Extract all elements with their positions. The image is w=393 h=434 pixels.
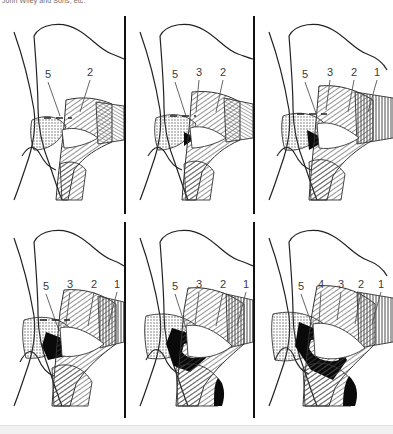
label-2: 2 bbox=[91, 278, 97, 290]
label-2: 2 bbox=[87, 66, 93, 78]
label-5: 5 bbox=[172, 280, 178, 292]
leader-5 bbox=[175, 82, 186, 116]
credit-text: John Wiley and Sons, etc. bbox=[2, 0, 182, 4]
label-1: 1 bbox=[243, 278, 249, 290]
leader-5 bbox=[48, 82, 60, 116]
cranial-outline bbox=[289, 230, 387, 276]
soft-tissue-wedge bbox=[31, 117, 66, 150]
left-structure-outer bbox=[14, 32, 35, 200]
label-3: 3 bbox=[196, 66, 202, 78]
cranial-outline bbox=[289, 24, 387, 70]
label-5: 5 bbox=[45, 68, 51, 80]
panel-6: 5 4 3 2 1 bbox=[255, 220, 393, 420]
alveolar-crest bbox=[148, 147, 182, 170]
label-2: 2 bbox=[351, 66, 357, 78]
cranial-outline bbox=[160, 24, 253, 59]
muscle-belly-lateral bbox=[226, 294, 253, 348]
label-2: 2 bbox=[220, 278, 226, 290]
divider-vertical-right bbox=[253, 16, 255, 214]
label-3: 3 bbox=[196, 278, 202, 290]
divider-vertical-left-lower bbox=[124, 222, 126, 418]
anatomical-figure-root: John Wiley and Sons, etc. bbox=[0, 0, 393, 434]
muscle-belly-lateral bbox=[96, 102, 124, 144]
panel-2: 5 3 2 bbox=[126, 14, 253, 214]
label-3: 3 bbox=[67, 278, 73, 290]
alveolar-crest bbox=[22, 147, 56, 170]
panel-4: 5 3 2 1 bbox=[0, 220, 124, 420]
label-3: 3 bbox=[327, 66, 333, 78]
label-5: 5 bbox=[172, 68, 178, 80]
label-5: 5 bbox=[298, 280, 304, 292]
label-1: 1 bbox=[374, 66, 380, 78]
label-5: 5 bbox=[302, 68, 308, 80]
label-2: 2 bbox=[358, 278, 364, 290]
bottom-band bbox=[0, 425, 393, 434]
panel-grid: 5 2 5 bbox=[0, 14, 393, 422]
label-4: 4 bbox=[318, 278, 324, 290]
divider-vertical-left bbox=[124, 16, 126, 214]
label-5: 5 bbox=[43, 280, 49, 292]
cranial-outline bbox=[160, 230, 253, 266]
panel-5: 5 3 2 1 bbox=[126, 220, 253, 420]
leader-5 bbox=[305, 82, 317, 116]
muscle-belly-lateral bbox=[224, 98, 253, 142]
muscle-belly-lateral bbox=[357, 292, 393, 348]
left-structure-outer bbox=[140, 32, 161, 200]
muscle-inferior-slip bbox=[184, 161, 214, 200]
label-1: 1 bbox=[114, 278, 120, 290]
label-2: 2 bbox=[220, 66, 226, 78]
credit-line: John Wiley and Sons, etc. bbox=[2, 0, 182, 7]
label-3: 3 bbox=[338, 278, 344, 290]
divider-vertical-right-lower bbox=[253, 222, 255, 418]
panel-3: 5 3 2 1 bbox=[255, 14, 393, 214]
muscle-inferior-slip bbox=[60, 162, 86, 200]
panel-1: 5 2 bbox=[0, 14, 124, 214]
cranial-outline bbox=[34, 230, 124, 266]
muscle-belly-lateral bbox=[98, 296, 124, 348]
alveolar-crest bbox=[277, 147, 311, 170]
cranial-outline bbox=[34, 24, 124, 59]
label-1: 1 bbox=[378, 278, 384, 290]
muscle-belly-lateral bbox=[355, 92, 393, 144]
